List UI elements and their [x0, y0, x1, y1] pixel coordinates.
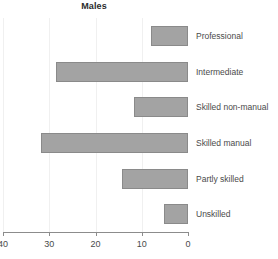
bar-row	[3, 133, 188, 153]
axis-tick	[188, 232, 189, 236]
category-label: Unskilled	[196, 210, 231, 219]
bar	[164, 204, 188, 224]
category-label: Skilled manual	[196, 139, 251, 148]
gridline	[96, 18, 97, 232]
chart-title: Males	[0, 1, 188, 11]
category-label: Intermediate	[196, 68, 243, 77]
bar	[151, 26, 188, 46]
category-label: Professional	[196, 32, 243, 41]
bar	[56, 62, 188, 82]
axis-tick-label: 0	[175, 239, 201, 249]
gridline	[49, 18, 50, 232]
bar	[41, 133, 188, 153]
axis-tick-label: 40	[0, 239, 16, 249]
plot-area	[3, 18, 188, 232]
bar-row	[3, 97, 188, 117]
gridline	[3, 18, 4, 232]
axis-tick	[96, 232, 97, 236]
axis-tick-label: 30	[36, 239, 62, 249]
axis-tick-label: 10	[129, 239, 155, 249]
category-label: Skilled non-manual	[196, 103, 268, 112]
axis-tick	[3, 232, 4, 236]
axis-tick	[49, 232, 50, 236]
axis-tick-label: 20	[83, 239, 109, 249]
bar-row	[3, 26, 188, 46]
category-label: Partly skilled	[196, 175, 244, 184]
axis-tick	[142, 232, 143, 236]
bar	[134, 97, 188, 117]
bar-row	[3, 169, 188, 189]
bar	[122, 169, 188, 189]
bar-chart: Males 403020100 ProfessionalIntermediate…	[0, 0, 278, 259]
bar-row	[3, 204, 188, 224]
gridline	[142, 18, 143, 232]
bar-row	[3, 62, 188, 82]
